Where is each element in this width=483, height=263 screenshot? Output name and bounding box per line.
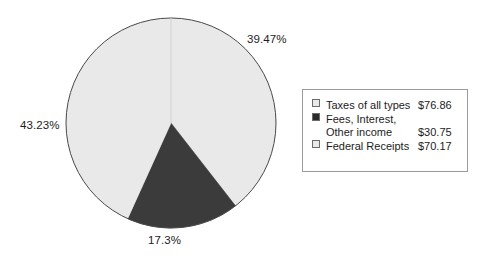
slice-percent-fees-interest: 17.3% (148, 235, 181, 247)
legend-swatch-federal-receipts (312, 140, 320, 148)
legend-row-taxes-of-all-types[interactable]: Taxes of all types $76.86 (312, 99, 460, 113)
pie-chart-figure: 39.47% 43.23% 17.3% Taxes of all types $… (0, 0, 483, 263)
legend-label-fees-interest-line2: Other income (326, 126, 418, 140)
legend-value-federal-receipts: $70.17 (418, 140, 452, 152)
legend-label-taxes-of-all-types: Taxes of all types (326, 99, 418, 113)
legend-swatch-taxes-of-all-types (312, 99, 320, 107)
legend-label-federal-receipts: Federal Receipts (326, 140, 418, 154)
legend-table: Taxes of all types $76.86 Fees, Interest… (312, 99, 460, 153)
legend-swatch-fees-interest-other-income (312, 113, 320, 121)
chart-legend: Taxes of all types $76.86 Fees, Interest… (302, 89, 468, 172)
pie-plot-area: 39.47% 43.23% 17.3% (0, 0, 300, 263)
legend-value-taxes-of-all-types: $76.86 (418, 99, 452, 111)
slice-percent-federal-receipts: 39.47% (247, 34, 287, 46)
legend-value-fees-interest-other-income: $30.75 (418, 126, 452, 138)
legend-row-fees-interest-other-income[interactable]: Fees, Interest, Other income $30.75 (312, 113, 460, 140)
legend-row-federal-receipts[interactable]: Federal Receipts $70.17 (312, 140, 460, 154)
slice-percent-taxes: 43.23% (20, 120, 60, 132)
legend-label-fees-interest-line1: Fees, Interest, (326, 113, 418, 127)
